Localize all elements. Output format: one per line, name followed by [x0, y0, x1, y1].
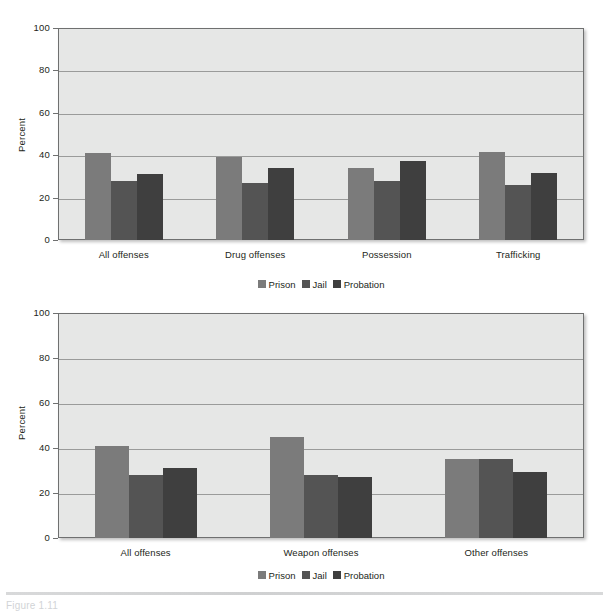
bar-prison: [445, 459, 479, 538]
bar-prison: [270, 437, 304, 538]
legend-label: Jail: [313, 570, 327, 581]
x-axis-label: Other offenses: [436, 547, 556, 558]
y-tick-label: 20: [10, 487, 50, 498]
legend-swatch-prison-icon: [258, 571, 266, 579]
bar-prison: [95, 446, 129, 538]
x-axis-label: All offenses: [86, 547, 206, 558]
chart-panel-bottom: Percent 020406080100 All offensesWeapon …: [0, 0, 611, 300]
gridline: [59, 359, 583, 360]
bar-probation: [163, 468, 197, 538]
bar-probation: [338, 477, 372, 538]
legend-label: Probation: [344, 570, 385, 581]
y-axis-title-bottom: Percent: [16, 406, 27, 440]
figure-caption: Figure 1.11: [6, 600, 58, 611]
legend-item-jail[interactable]: Jail: [302, 570, 327, 581]
y-tick-mark: [53, 448, 58, 449]
x-axis-label: Weapon offenses: [261, 547, 381, 558]
y-tick-label: 80: [10, 352, 50, 363]
gridline: [59, 449, 583, 450]
y-tick-mark: [53, 403, 58, 404]
bar-jail: [479, 459, 513, 538]
y-tick-mark: [53, 493, 58, 494]
y-tick-mark: [53, 358, 58, 359]
y-tick-mark: [53, 313, 58, 314]
legend-label: Prison: [269, 570, 296, 581]
y-tick-mark: [53, 538, 58, 539]
y-tick-label: 100: [10, 307, 50, 318]
bar-jail: [129, 475, 163, 538]
legend-bottom: PrisonJailProbation: [58, 568, 584, 582]
legend-swatch-probation-icon: [333, 571, 341, 579]
y-tick-label: 40: [10, 442, 50, 453]
legend-swatch-jail-icon: [302, 571, 310, 579]
bar-probation: [513, 472, 547, 538]
footer-divider: [6, 592, 603, 595]
bar-jail: [304, 475, 338, 538]
legend-item-prison[interactable]: Prison: [258, 570, 296, 581]
legend-item-probation[interactable]: Probation: [333, 570, 385, 581]
y-tick-label: 0: [10, 532, 50, 543]
y-tick-label: 60: [10, 397, 50, 408]
gridline: [59, 404, 583, 405]
